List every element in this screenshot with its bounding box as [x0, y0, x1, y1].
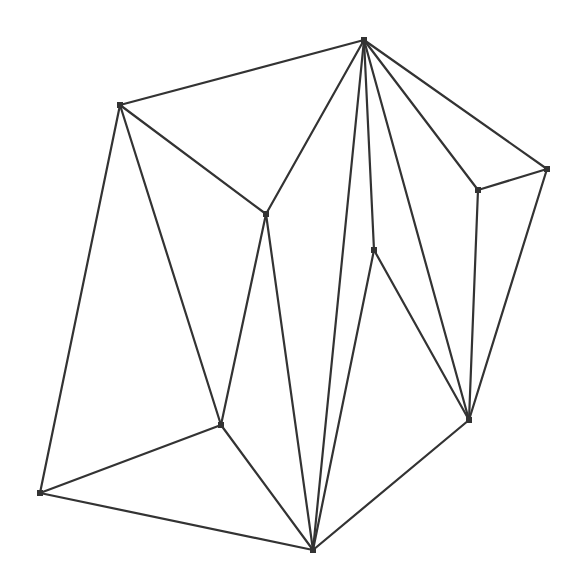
edge-G-H — [40, 425, 221, 493]
node-D — [544, 166, 550, 172]
node-G — [218, 422, 224, 428]
node-A — [117, 102, 123, 108]
graph-diagram — [0, 0, 585, 588]
edge-D-J — [469, 169, 547, 420]
edge-H-I — [40, 493, 313, 550]
node-B — [263, 211, 269, 217]
edge-A-G — [120, 105, 221, 425]
node-C — [361, 37, 367, 43]
node-E — [475, 187, 481, 193]
edge-A-B — [120, 105, 266, 214]
node-I — [310, 547, 316, 553]
edge-B-I — [266, 214, 313, 550]
edge-A-H — [40, 105, 120, 493]
edge-F-J — [374, 250, 469, 420]
edge-C-D — [364, 40, 547, 169]
edge-C-E — [364, 40, 478, 190]
graph-edges — [40, 40, 547, 550]
edge-D-E — [478, 169, 547, 190]
edge-F-I — [313, 250, 374, 550]
edge-A-C — [120, 40, 364, 105]
edge-C-J — [364, 40, 469, 420]
edge-E-J — [469, 190, 478, 420]
node-H — [37, 490, 43, 496]
edge-B-G — [221, 214, 266, 425]
node-J — [466, 417, 472, 423]
node-F — [371, 247, 377, 253]
